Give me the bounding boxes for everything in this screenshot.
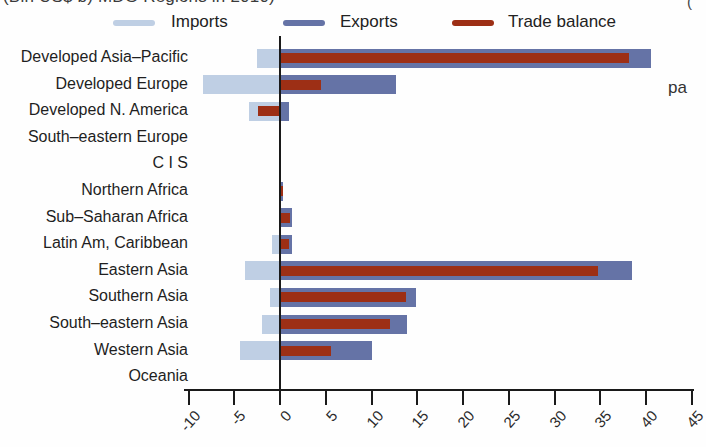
x-axis-tick-mark bbox=[462, 390, 464, 405]
x-axis-tick-label: 15 bbox=[395, 407, 432, 445]
x-axis-tick-label: 40 bbox=[624, 407, 661, 445]
category-label: South–eastern Europe bbox=[0, 128, 188, 146]
x-axis-tick-mark bbox=[599, 390, 601, 405]
x-axis-tick-label: 20 bbox=[441, 407, 478, 445]
cropped-top-right-mark: ( bbox=[687, 0, 692, 10]
trade-balance-bar bbox=[280, 292, 406, 302]
trade-balance-bar bbox=[280, 53, 629, 63]
trade-balance-bar bbox=[280, 213, 290, 223]
x-axis-tick-mark bbox=[645, 390, 647, 405]
category-label: Developed N. America bbox=[0, 101, 188, 119]
trade-balance-bar bbox=[280, 319, 390, 329]
category-label: C I S bbox=[0, 154, 188, 172]
imports-legend-swatch bbox=[113, 20, 155, 26]
category-label: Latin Am, Caribbean bbox=[0, 234, 188, 252]
x-axis-tick-mark bbox=[188, 390, 190, 405]
imports-bar bbox=[240, 341, 280, 360]
legend-label: Trade balance bbox=[508, 12, 616, 32]
x-axis-line bbox=[184, 389, 694, 391]
x-axis-tick-mark bbox=[325, 390, 327, 405]
x-axis-tick-mark bbox=[371, 390, 373, 405]
category-label: South–eastern Asia bbox=[0, 314, 188, 332]
x-axis-tick-label: 5 bbox=[304, 407, 341, 445]
x-axis-tick-label: 35 bbox=[578, 407, 615, 445]
trade-balance-bar bbox=[280, 80, 321, 90]
category-label: Developed Asia–Pacific bbox=[0, 48, 188, 66]
x-axis-tick-mark bbox=[233, 390, 235, 405]
x-axis-tick-label: -5 bbox=[212, 407, 249, 445]
category-label: Northern Africa bbox=[0, 181, 188, 199]
x-axis-tick-label: 30 bbox=[532, 407, 569, 445]
trade-balance-bar bbox=[280, 239, 289, 249]
trade-balance-bar bbox=[280, 346, 331, 356]
legend-label: Imports bbox=[171, 12, 228, 32]
exports-legend-swatch bbox=[283, 20, 325, 26]
category-label: Southern Asia bbox=[0, 287, 188, 305]
imports-bar bbox=[262, 315, 280, 334]
x-axis-tick-label: 25 bbox=[487, 407, 524, 445]
x-axis-tick-label: 45 bbox=[670, 407, 706, 445]
x-axis-tick-mark bbox=[554, 390, 556, 405]
cropped-right-text-fragment: pa bbox=[668, 78, 687, 98]
x-axis-tick-label: 10 bbox=[349, 407, 386, 445]
category-label: Oceania bbox=[0, 367, 188, 385]
x-axis-tick-mark bbox=[416, 390, 418, 405]
imports-bar bbox=[203, 75, 280, 94]
x-axis-tick-mark bbox=[279, 390, 281, 405]
category-label: Eastern Asia bbox=[0, 261, 188, 279]
zero-baseline bbox=[279, 36, 281, 390]
imports-bar bbox=[245, 261, 280, 280]
x-axis-tick-mark bbox=[508, 390, 510, 405]
trade-balance-bar bbox=[258, 106, 280, 116]
imports-bar bbox=[257, 49, 280, 68]
trade-balance-legend-swatch bbox=[452, 20, 494, 26]
x-axis-tick-label: 0 bbox=[258, 407, 295, 445]
chart-title: (Bln US$ b) MDG Regions in 2010) bbox=[3, 0, 275, 7]
trade-balance-bar bbox=[280, 266, 598, 276]
category-label: Western Asia bbox=[0, 341, 188, 359]
x-axis-tick-label: -10 bbox=[166, 407, 203, 445]
x-axis-tick-mark bbox=[691, 390, 693, 405]
category-label: Developed Europe bbox=[0, 75, 188, 93]
legend-label: Exports bbox=[340, 12, 398, 32]
exports-bar bbox=[280, 102, 289, 121]
category-label: Sub–Saharan Africa bbox=[0, 208, 188, 226]
